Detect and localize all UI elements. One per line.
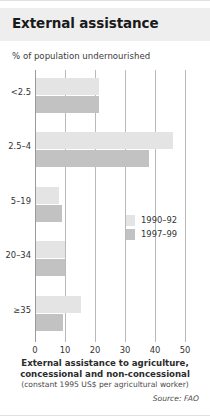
bar	[36, 314, 63, 331]
source-note: Source: FAO	[153, 394, 199, 403]
x-axis-tick-label: 10	[60, 345, 71, 355]
x-axis-tick-label: 40	[150, 345, 161, 355]
chart-legend: 1990–921997–99	[126, 213, 177, 241]
bar	[36, 241, 65, 258]
bar	[36, 150, 149, 167]
y-axis-category-label: 20–34	[5, 250, 31, 260]
bar	[36, 132, 173, 149]
x-axis-caption: External assistance to agriculture, conc…	[0, 358, 210, 379]
bar	[36, 96, 99, 113]
legend-item: 1990–92	[126, 213, 177, 227]
x-axis-tick-label: 50	[180, 345, 191, 355]
bar	[36, 78, 99, 95]
x-axis-tick-label: 0	[32, 345, 37, 355]
bar	[36, 296, 81, 313]
legend-label: 1990–92	[141, 215, 177, 225]
legend-swatch	[126, 229, 135, 240]
legend-label: 1997–99	[141, 229, 177, 239]
y-axis-category-label: ≥35	[13, 305, 31, 315]
bar-group: ≥35	[36, 292, 186, 336]
bar	[36, 205, 62, 222]
bar-group: 20–34	[36, 237, 186, 281]
bar-group: 2.5–4	[36, 128, 186, 172]
bar-group: <2.5	[36, 74, 186, 118]
y-axis-category-label: <2.5	[11, 87, 31, 97]
x-axis-units: (constant 1995 US$ per agricultural work…	[0, 380, 210, 389]
chart-subtitle: % of population undernourished	[12, 51, 150, 61]
chart-figure: External assistance % of population unde…	[0, 0, 210, 416]
x-axis-tick-label: 20	[90, 345, 101, 355]
legend-swatch	[126, 215, 135, 226]
page-title: External assistance	[12, 15, 159, 31]
legend-item: 1997–99	[126, 227, 177, 241]
y-axis-category-label: 2.5–4	[8, 141, 31, 151]
x-axis-caption-line2: concessional and non-concessional	[0, 369, 210, 380]
plot-area: <2.52.5–45–1920–34≥35	[35, 70, 185, 342]
x-axis-caption-line1: External assistance to agriculture,	[0, 358, 210, 369]
y-axis-category-label: 5–19	[11, 196, 31, 206]
x-axis-tick-label: 30	[120, 345, 131, 355]
bar	[36, 187, 59, 204]
bar	[36, 259, 65, 276]
